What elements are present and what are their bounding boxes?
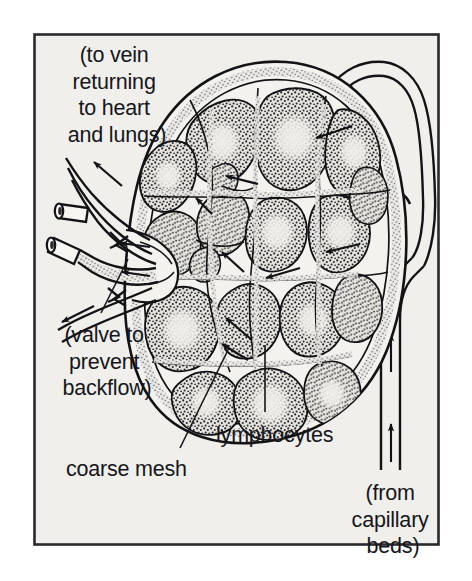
afferent-label-line: beds) bbox=[367, 534, 420, 558]
germinal-center bbox=[295, 300, 331, 340]
lymphoid-nodule bbox=[350, 167, 388, 224]
cut-vessel-bore bbox=[50, 241, 54, 249]
germinal-center bbox=[248, 381, 292, 427]
germinal-center bbox=[338, 132, 370, 172]
germinal-center bbox=[317, 378, 347, 410]
lymph-node-diagram: (to vein returning to heart and lungs) (… bbox=[0, 0, 472, 581]
cut-vessel-bore bbox=[58, 207, 62, 215]
efferent-label-line: and lungs) bbox=[68, 123, 166, 147]
efferent-label-line: to heart bbox=[78, 96, 150, 120]
lymph-node-figure: (to vein returning to heart and lungs) (… bbox=[0, 0, 472, 581]
germinal-center bbox=[153, 159, 183, 193]
sinus-stipple bbox=[255, 96, 258, 370]
germinal-center bbox=[258, 211, 296, 253]
afferent-label-line: (from bbox=[366, 481, 415, 505]
germinal-center bbox=[270, 112, 318, 164]
germinal-center bbox=[189, 384, 223, 420]
valve-label: (valve to prevent backflow) bbox=[62, 323, 151, 400]
efferent-label-line: returning bbox=[73, 70, 156, 94]
coarse-mesh-label: coarse mesh bbox=[66, 457, 187, 481]
efferent-label-line: (to vein bbox=[80, 43, 149, 67]
lymphoid-nodule bbox=[216, 284, 281, 359]
lymphocytes-label: lymphocytes bbox=[216, 423, 333, 447]
germinal-center bbox=[160, 306, 204, 354]
lymphoid-nodule bbox=[332, 274, 382, 342]
valve-label-line: prevent bbox=[69, 350, 140, 374]
afferent-label-line: capillary bbox=[352, 508, 430, 532]
valve-label-line: backflow) bbox=[62, 376, 151, 400]
valve-label-line: (valve to bbox=[64, 323, 144, 347]
